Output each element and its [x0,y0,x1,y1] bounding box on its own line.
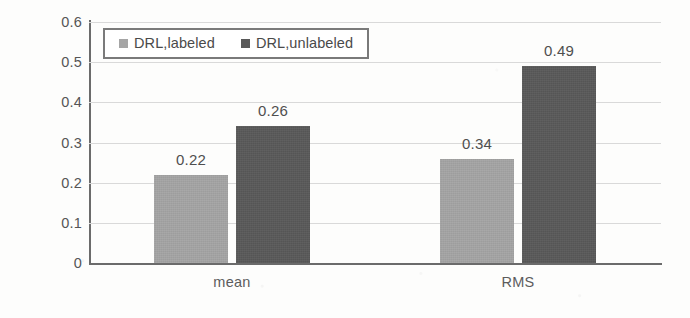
bar-texture [154,175,228,263]
legend-item-0[interactable]: DRL,labeled [119,35,215,51]
bar-rms-series-1[interactable] [522,66,596,263]
x-axis-line [89,263,662,265]
legend-label: DRL,labeled [134,35,215,51]
y-axis-tick-label: 0.4 [46,94,82,110]
bar-texture [440,159,514,263]
chart-legend: DRL,labeledDRL,unlabeled [103,28,369,59]
x-axis-category-label: mean [213,274,250,290]
legend-label: DRL,unlabeled [256,35,353,51]
y-axis-tick-label: 0.5 [46,54,82,70]
y-axis-tick-label: 0.1 [46,215,82,231]
bar-value-label: 0.22 [176,151,206,168]
bar-rms-series-0[interactable] [440,159,514,263]
bar-value-label: 0.34 [462,135,492,152]
bar-mean-series-0[interactable] [154,175,228,263]
bar-texture [522,66,596,263]
y-axis-tick-label: 0.6 [46,14,82,30]
gridline [89,62,661,63]
bar-value-label: 0.49 [544,42,574,59]
bar-chart-figure: Location error (m) 0.60.50.40.30.20.10 0… [0,0,690,318]
y-axis-tick-label: 0 [46,255,82,271]
y-axis-tick-label: 0.2 [46,175,82,191]
y-axis-tick-label: 0.3 [46,135,82,151]
gridline [89,22,661,23]
legend-item-1[interactable]: DRL,unlabeled [241,35,353,51]
bar-mean-series-1[interactable] [236,126,310,263]
x-axis-category-label: RMS [501,274,534,290]
y-axis-tick-labels: 0.60.50.40.30.20.10 [46,0,82,318]
bar-texture [236,126,310,263]
bar-value-label: 0.26 [258,102,288,119]
legend-swatch-icon [119,39,128,48]
legend-swatch-icon [241,39,250,48]
